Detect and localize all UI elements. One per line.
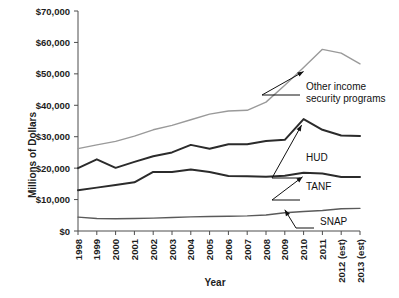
y-tick-label: $20,000 (36, 163, 70, 174)
y-tick-label: $40,000 (36, 100, 70, 111)
annotation-label-snap: SNAP (320, 216, 348, 227)
x-tick-label: 2005 (204, 238, 215, 260)
x-tick-label: 2008 (261, 239, 272, 260)
x-tick-label: 2012 (est) (336, 239, 347, 283)
y-axis-title: Millions of Dollars (27, 112, 38, 199)
x-tick-label: 2007 (242, 239, 253, 260)
x-axis-ticks: 1998199920002001200220032004200520062007… (73, 231, 366, 283)
x-tick-label: 2009 (279, 239, 290, 260)
y-tick-label: $70,000 (36, 6, 70, 17)
x-tick-label: 2002 (148, 239, 159, 260)
y-tick-label: $10,000 (36, 194, 70, 205)
x-tick-label: 2003 (167, 239, 178, 260)
chart-canvas: $70,000$60,000$50,000$40,000$30,000$20,0… (0, 0, 399, 298)
annotation-label-other-income-security-programs: Other income (306, 81, 366, 92)
annotation-leader-other-income-security-programs (262, 72, 304, 95)
series-annotations: Other incomesecurity programsHUDTANFSNAP (262, 72, 385, 228)
annotation-label-other-income-security-programs-line2: security programs (306, 93, 385, 104)
annotation-label-tanf: TANF (306, 181, 331, 192)
x-tick-label: 2010 (298, 239, 309, 260)
x-tick-label: 2001 (129, 238, 140, 260)
series-line-snap (78, 208, 360, 218)
series-lines (78, 49, 360, 218)
x-tick-label: 2000 (110, 239, 121, 260)
y-tick-label: $30,000 (36, 131, 70, 142)
annotation-label-hud: HUD (306, 152, 328, 163)
x-tick-label: 2004 (185, 238, 196, 260)
annotation-leader-hud (272, 125, 302, 178)
x-tick-label: 1998 (73, 239, 84, 260)
x-tick-label: 2011 (317, 238, 328, 259)
y-axis-ticks: $70,000$60,000$50,000$40,000$30,000$20,0… (36, 6, 78, 237)
y-tick-label: $60,000 (36, 37, 70, 48)
x-axis-title: Year (204, 277, 225, 288)
x-tick-label: 1999 (91, 239, 102, 260)
line-chart: $70,000$60,000$50,000$40,000$30,000$20,0… (0, 0, 399, 298)
y-tick-label: $0 (59, 226, 70, 237)
x-tick-label: 2006 (223, 239, 234, 260)
y-tick-label: $50,000 (36, 68, 70, 79)
annotation-arrowhead-other-income-security-programs (297, 72, 303, 77)
x-tick-label: 2013 (est) (355, 239, 366, 283)
